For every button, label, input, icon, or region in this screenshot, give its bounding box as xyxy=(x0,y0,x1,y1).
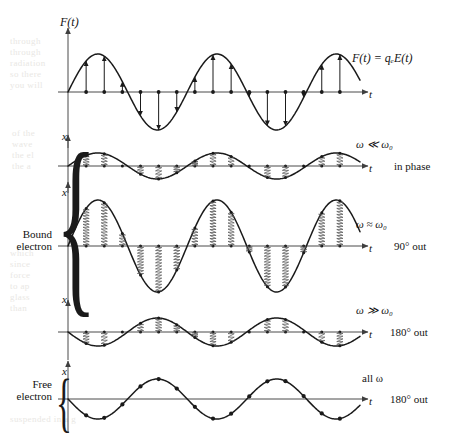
spring-marker-8 xyxy=(210,153,216,166)
curve-point-12 xyxy=(284,318,287,321)
axis-point-13 xyxy=(302,165,305,168)
curve-point-5 xyxy=(157,377,161,381)
spring-marker-5 xyxy=(156,246,162,292)
force-equation: F(t) = qₑE(t) xyxy=(352,52,413,64)
curve-point-9 xyxy=(230,155,233,158)
curve-point-6 xyxy=(175,171,178,174)
panel-omega-approx xyxy=(58,182,368,306)
curve-point-13 xyxy=(302,251,305,254)
free-electron-brace: { xyxy=(56,369,72,435)
axis-point-3 xyxy=(121,165,124,168)
axis-label-t-p5: t xyxy=(369,396,372,407)
axis-label-t-p3: t xyxy=(369,243,372,254)
curve-point-5 xyxy=(157,317,160,320)
spring-marker-15 xyxy=(337,201,343,246)
curve-point-7 xyxy=(193,336,196,339)
panel4-omega-label: ω ≫ ω₀ xyxy=(356,305,393,316)
axis-point-13 xyxy=(302,331,305,334)
spring-marker-9 xyxy=(228,332,234,342)
spring-marker-12 xyxy=(282,246,288,287)
panel-free-electron xyxy=(58,361,368,433)
curve-point-15 xyxy=(338,344,341,347)
panel4-phase-label: 180° out xyxy=(390,327,428,338)
curve-point-7 xyxy=(193,405,197,409)
spring-marker-2 xyxy=(101,203,107,246)
spring-marker-7 xyxy=(192,228,198,246)
bound-electron-brace: { xyxy=(56,123,96,323)
panel3-omega-label: ω ≈ ω₀ xyxy=(356,219,387,230)
spring-marker-14 xyxy=(319,332,325,342)
spring-marker-12 xyxy=(282,320,288,332)
axis-label-t-p2: t xyxy=(369,163,372,174)
curve-point-7 xyxy=(193,159,196,162)
curve-point-6 xyxy=(175,323,178,326)
curve-point-8 xyxy=(212,344,215,347)
axis-label-t-p4: t xyxy=(369,329,372,340)
curve-point-15 xyxy=(338,199,341,202)
curve-point-2 xyxy=(103,152,106,155)
panel5-phase-label: 180° out xyxy=(390,394,428,405)
curve-point-5 xyxy=(157,177,160,180)
curve-point-4 xyxy=(139,273,142,276)
spring-marker-12 xyxy=(282,166,288,178)
spring-marker-2 xyxy=(101,154,107,166)
spring-marker-1 xyxy=(83,332,89,343)
curve-point-3 xyxy=(120,402,124,406)
panel2-omega-label: ω ≪ ω₀ xyxy=(356,139,393,150)
curve-point-4 xyxy=(139,173,142,176)
spring-marker-5 xyxy=(156,318,162,332)
curve-point-4 xyxy=(138,384,142,388)
axis-point-10 xyxy=(248,165,251,168)
curve-point-2 xyxy=(103,201,106,204)
curve-point-3 xyxy=(121,232,124,235)
curve-point-2 xyxy=(103,344,106,347)
spring-marker-11 xyxy=(264,246,270,287)
panel-driving-force xyxy=(58,28,368,148)
spring-marker-8 xyxy=(210,201,216,246)
curve-point-6 xyxy=(175,269,178,272)
curve-point-2 xyxy=(102,416,106,420)
free-electron-label-line1: Free xyxy=(32,378,52,390)
spring-marker-14 xyxy=(319,213,325,246)
bound-electron-label-line1: Bound xyxy=(23,228,52,240)
curve-point-11 xyxy=(266,176,269,179)
curve-point-11 xyxy=(266,285,269,288)
curve-point-9 xyxy=(230,341,233,344)
curve-point-5 xyxy=(157,290,160,293)
panel3-phase-label: 90° out xyxy=(394,241,426,252)
axis-point-3 xyxy=(121,331,124,334)
curve-point-8 xyxy=(211,416,215,420)
curve-point-14 xyxy=(320,211,323,214)
curve-point-11 xyxy=(265,379,269,383)
spring-marker-15 xyxy=(337,332,343,346)
panel-omega-much-greater xyxy=(58,300,368,360)
axis-label-t-p1: t xyxy=(369,89,372,100)
curve-point-8 xyxy=(212,152,215,155)
panel-omega-much-less xyxy=(58,135,368,193)
free-electron-label: Free electron xyxy=(0,378,52,402)
spring-marker-5 xyxy=(156,166,162,179)
bound-electron-label: Bound electron xyxy=(0,228,52,252)
curve-point-1 xyxy=(84,413,88,417)
panel5-omega-label: all ω xyxy=(362,373,383,384)
curve-point-14 xyxy=(320,155,323,158)
spring-marker-2 xyxy=(101,332,107,345)
curve-point-10 xyxy=(247,394,251,398)
curve-point-12 xyxy=(284,176,287,179)
spring-marker-8 xyxy=(210,332,216,346)
figure-canvas: through through radiation so there you w… xyxy=(0,0,460,435)
axis-label-force: F(t) xyxy=(60,16,79,28)
curve-point-4 xyxy=(139,322,142,325)
spring-marker-11 xyxy=(264,166,270,177)
curve-point-9 xyxy=(229,412,233,416)
free-electron-label-line2: electron xyxy=(17,390,52,402)
curve-point-10 xyxy=(248,250,251,253)
spring-marker-4 xyxy=(137,246,143,275)
bound-electron-label-line2: electron xyxy=(17,240,52,252)
axis-point-10 xyxy=(248,331,251,334)
curve-point-15 xyxy=(338,152,341,155)
curve-point-8 xyxy=(212,200,215,203)
curve-point-1 xyxy=(85,342,88,345)
spring-marker-11 xyxy=(264,320,270,332)
curve-point-9 xyxy=(230,211,233,214)
